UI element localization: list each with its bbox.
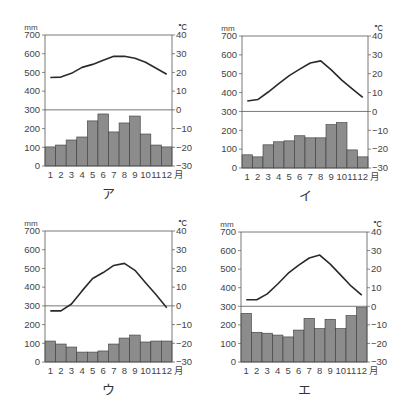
left-tick-label: 300 xyxy=(221,106,237,117)
month-label: 8 xyxy=(122,365,127,376)
precip-bar xyxy=(77,137,88,166)
month-label: 6 xyxy=(297,171,302,182)
precip-bar xyxy=(109,132,120,166)
climate-chart-a: 7006005004003002001000403020100−10−20−30… xyxy=(24,23,192,201)
month-label: 12 xyxy=(161,365,172,376)
left-tick-label: 600 xyxy=(24,48,40,59)
precip-bar xyxy=(283,337,294,362)
left-tick-label: 600 xyxy=(220,245,236,256)
temperature-line xyxy=(247,61,363,101)
precip-bar xyxy=(151,341,162,362)
precip-bar xyxy=(241,313,252,362)
right-tick-label: 0 xyxy=(176,300,181,311)
right-unit-label: ℃ xyxy=(178,23,187,32)
left-tick-label: 0 xyxy=(35,356,40,367)
precip-bar xyxy=(242,155,253,168)
month-label: 10 xyxy=(335,365,346,376)
precip-bar xyxy=(45,147,56,166)
right-tick-label: −20 xyxy=(371,338,387,349)
month-label: 4 xyxy=(275,365,280,376)
left-tick-label: 0 xyxy=(231,356,236,367)
right-tick-label: −20 xyxy=(372,143,388,154)
left-tick-label: 0 xyxy=(35,160,40,171)
month-label: 2 xyxy=(254,365,259,376)
chart-title: ア xyxy=(102,186,115,201)
precip-bar xyxy=(358,157,369,168)
chart-title: イ xyxy=(299,188,312,203)
precip-bar xyxy=(262,333,273,362)
precip-bar xyxy=(98,351,109,362)
left-tick-label: 400 xyxy=(24,281,40,292)
precip-bar xyxy=(273,335,284,362)
right-unit-label: ℃ xyxy=(373,220,382,229)
precip-bar xyxy=(295,136,306,168)
month-label: 6 xyxy=(101,365,106,376)
precip-bar xyxy=(336,329,347,362)
month-label: 4 xyxy=(276,171,281,182)
left-tick-label: 400 xyxy=(220,282,236,293)
precip-bar xyxy=(284,141,295,168)
left-tick-label: 100 xyxy=(220,338,236,349)
month-label: 9 xyxy=(132,169,137,180)
month-label: 3 xyxy=(69,169,74,180)
precip-bar xyxy=(119,338,130,362)
precip-bar xyxy=(130,335,141,362)
right-tick-label: 0 xyxy=(176,104,181,115)
precip-bar xyxy=(161,147,172,166)
month-label: 4 xyxy=(79,169,84,180)
right-tick-label: 30 xyxy=(176,48,187,59)
right-unit-label: ℃ xyxy=(374,24,383,33)
month-label: 3 xyxy=(266,171,271,182)
month-label: 8 xyxy=(317,365,322,376)
precip-bar xyxy=(140,342,151,362)
left-unit-label: mm xyxy=(220,220,234,229)
right-tick-label: 10 xyxy=(371,282,382,293)
right-tick-label: 20 xyxy=(176,263,187,274)
month-label: 8 xyxy=(318,171,323,182)
month-label: 5 xyxy=(90,365,95,376)
month-label: 6 xyxy=(101,169,106,180)
precip-bar xyxy=(130,116,141,166)
right-tick-label: −10 xyxy=(176,123,192,134)
precip-bar xyxy=(252,332,263,362)
month-suffix: 月 xyxy=(174,365,184,376)
precip-bar xyxy=(151,145,162,166)
left-tick-label: 200 xyxy=(24,123,40,134)
left-tick-label: 100 xyxy=(221,143,237,154)
month-suffix: 月 xyxy=(174,169,184,180)
left-unit-label: mm xyxy=(221,24,235,33)
left-tick-label: 500 xyxy=(24,67,40,78)
month-label: 10 xyxy=(336,171,347,182)
right-tick-label: −10 xyxy=(176,319,192,330)
month-label: 2 xyxy=(58,365,63,376)
precip-bar xyxy=(263,145,274,168)
month-label: 7 xyxy=(308,171,313,182)
right-tick-label: −20 xyxy=(176,142,192,153)
precip-bar xyxy=(346,316,357,362)
month-suffix: 月 xyxy=(369,365,379,376)
precip-bar xyxy=(337,123,348,168)
month-label: 3 xyxy=(69,365,74,376)
precip-bar xyxy=(66,347,77,362)
month-label: 1 xyxy=(48,365,53,376)
precip-bar xyxy=(305,138,316,168)
right-tick-label: 20 xyxy=(372,68,383,79)
climate-chart-e: 7006005004003002001000403020100−10−20−30… xyxy=(220,220,387,397)
left-tick-label: 500 xyxy=(24,263,40,274)
right-tick-label: −10 xyxy=(371,319,387,330)
month-label: 7 xyxy=(111,169,116,180)
left-tick-label: 100 xyxy=(24,338,40,349)
precip-bar xyxy=(56,344,67,362)
temperature-line xyxy=(50,56,166,77)
precip-bar xyxy=(304,318,315,362)
right-tick-label: 0 xyxy=(372,106,377,117)
precip-bar xyxy=(357,308,368,362)
precip-bar xyxy=(109,344,120,362)
chart-title: ウ xyxy=(102,382,115,397)
precip-bar xyxy=(140,134,151,166)
precip-bar xyxy=(294,330,305,362)
right-tick-label: 30 xyxy=(372,49,383,60)
precip-bar xyxy=(119,123,130,166)
month-label: 8 xyxy=(122,169,127,180)
left-tick-label: 100 xyxy=(24,142,40,153)
